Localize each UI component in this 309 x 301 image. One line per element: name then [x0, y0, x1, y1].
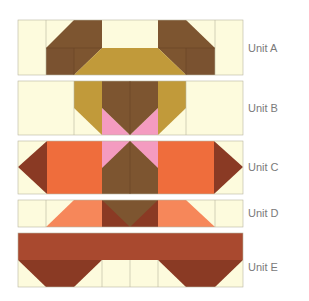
unit-c-block: [18, 141, 243, 194]
unit-d-block: [18, 200, 243, 227]
unit-e-label: Unit E: [248, 261, 278, 273]
unit-d-label: Unit D: [248, 207, 279, 219]
unit-b-block: [18, 81, 243, 135]
unit-a-label: Unit A: [248, 42, 277, 54]
unit-e-block: [18, 233, 243, 287]
unit-c-label: Unit C: [248, 161, 279, 173]
unit-a-block: [18, 20, 243, 75]
unit-b-label: Unit B: [248, 102, 278, 114]
